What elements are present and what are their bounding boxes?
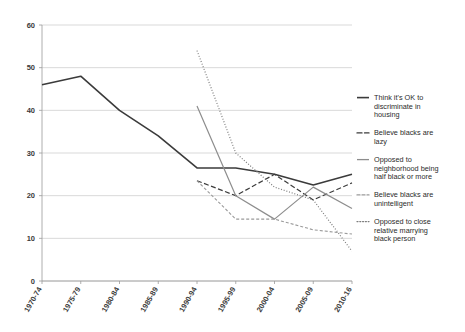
series-line <box>197 106 352 219</box>
series-line <box>42 76 352 185</box>
y-axis-tick-label: 20 <box>27 191 35 200</box>
y-axis-tick-label: 10 <box>27 234 35 243</box>
line-chart: 0102030405060 1970-741975-791980-841985-… <box>0 0 465 332</box>
chart-legend: Think it's OK todiscriminate inhousingBe… <box>357 93 439 243</box>
legend-label[interactable]: Opposed toneighborhood beinghalf black o… <box>374 155 439 181</box>
x-axis-tick-label: 1990-94 <box>177 285 199 314</box>
x-axis-tick-label: 2000-04 <box>255 285 277 314</box>
x-axis-tick-label: 2005-09 <box>293 286 315 314</box>
x-axis-tick-labels: 1970-741975-791980-841985-891990-941995-… <box>22 285 354 314</box>
x-axis-tick-label: 1995-99 <box>216 286 238 314</box>
y-axis-tick-labels: 0102030405060 <box>27 21 35 286</box>
y-axis-tick-label: 50 <box>27 63 35 72</box>
series-line <box>197 51 352 252</box>
y-axis-tick-label: 0 <box>31 277 35 286</box>
legend-label[interactable]: Believe blacks arelazy <box>374 128 433 146</box>
x-axis-tick-label: 1985-89 <box>138 286 160 314</box>
legend-label[interactable]: Opposed to closerelative marryingblack p… <box>374 217 431 243</box>
legend-label[interactable]: Believe blacks areunintelligent <box>374 190 433 208</box>
series-group <box>42 51 352 252</box>
series-line <box>197 181 352 234</box>
gridlines-group <box>42 25 352 281</box>
y-axis-tick-label: 40 <box>27 106 35 115</box>
y-axis-tick-label: 30 <box>27 149 35 158</box>
chart-canvas: 0102030405060 1970-741975-791980-841985-… <box>0 0 465 332</box>
x-axis-tick-label: 1970-74 <box>22 285 44 314</box>
x-axis-tick-label: 1975-79 <box>61 286 83 314</box>
x-axis-tick-label: 2010-16 <box>332 286 354 314</box>
axis-lines <box>39 25 352 284</box>
legend-label[interactable]: Think it's OK todiscriminate inhousing <box>374 93 423 119</box>
x-axis-tick-label: 1980-84 <box>100 285 122 314</box>
y-axis-tick-label: 60 <box>27 21 35 30</box>
